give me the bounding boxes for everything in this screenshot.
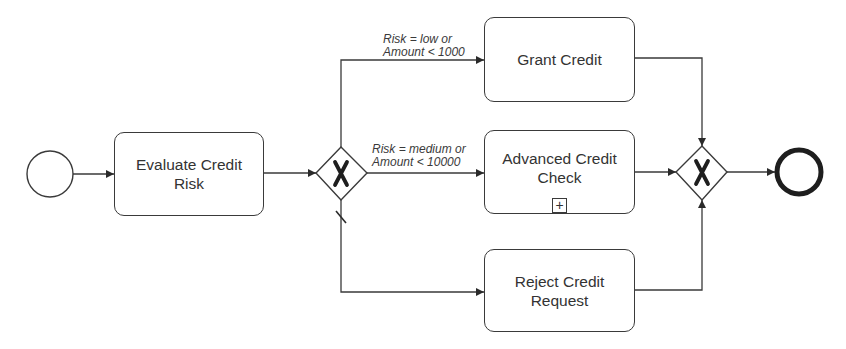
- start-event-icon[interactable]: [27, 151, 73, 197]
- flow-reject-to-merge[interactable]: [635, 200, 702, 290]
- task-grant-credit[interactable]: Grant Credit: [484, 17, 635, 102]
- condition-line-2: Amount < 1000: [383, 46, 465, 59]
- task-label: Reject Credit Request: [499, 272, 621, 310]
- subprocess-advanced-credit-check[interactable]: Advanced Credit Check +: [484, 130, 635, 214]
- condition-label-grant: Risk = low or Amount < 1000: [383, 33, 465, 59]
- task-label: Grant Credit: [511, 50, 607, 69]
- task-label: Advanced Credit Check: [489, 149, 631, 187]
- task-evaluate-credit-risk[interactable]: Evaluate Credit Risk: [114, 132, 264, 216]
- exclusive-gateway-split[interactable]: [316, 147, 367, 200]
- exclusive-gateway-merge[interactable]: [676, 146, 727, 200]
- flow-split-to-reject[interactable]: [341, 200, 484, 292]
- task-reject-credit-request[interactable]: Reject Credit Request: [484, 249, 635, 332]
- condition-label-advanced: Risk = medium or Amount < 10000: [372, 143, 466, 169]
- expand-subprocess-icon[interactable]: +: [552, 198, 567, 213]
- flow-grant-to-merge[interactable]: [635, 58, 702, 146]
- bpmn-diagram: Risk = low or Amount < 1000 Risk = mediu…: [0, 0, 846, 349]
- condition-line-2: Amount < 10000: [372, 156, 466, 169]
- task-label: Evaluate Credit Risk: [123, 155, 255, 193]
- end-event-icon[interactable]: [777, 150, 821, 194]
- flow-split-to-grant[interactable]: [341, 60, 484, 147]
